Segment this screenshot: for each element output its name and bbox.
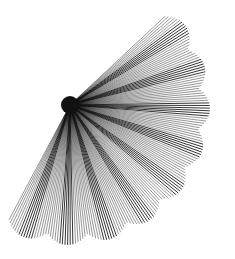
fan-hub	[61, 96, 79, 114]
fan-rays	[9, 16, 210, 245]
radial-fan-drawing	[0, 0, 235, 259]
